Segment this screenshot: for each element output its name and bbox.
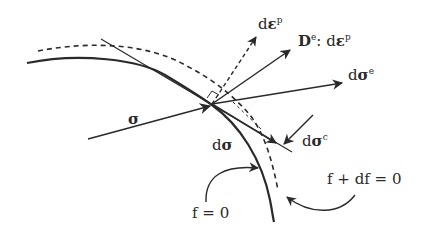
label-d-sigma-c: dσc <box>302 133 328 149</box>
diagram-canvas <box>0 0 428 231</box>
stress-vector-arrow <box>88 106 210 139</box>
f-zero-pointer <box>206 167 258 202</box>
plastic-strain-arrow <box>212 37 256 104</box>
label-d-sigma: dσ <box>212 138 233 153</box>
f-df-zero-pointer <box>287 195 355 210</box>
label-sigma: σ <box>128 112 139 127</box>
elastic-trial-arrow <box>212 83 342 104</box>
label-De-d-eps-p: De: dεp <box>298 33 351 49</box>
yield-surface-curve <box>27 58 274 222</box>
yield-surface-diagram: σ dσ dεp De: dεp dσe dσc f = 0 f + df = … <box>0 0 428 231</box>
corrector-direction-arrow <box>212 50 290 104</box>
label-f-zero: f = 0 <box>192 206 229 221</box>
label-f-df-zero: f + df = 0 <box>327 172 401 187</box>
label-d-eps-p: dεp <box>258 16 283 32</box>
label-d-sigma-e: dσe <box>348 67 374 83</box>
